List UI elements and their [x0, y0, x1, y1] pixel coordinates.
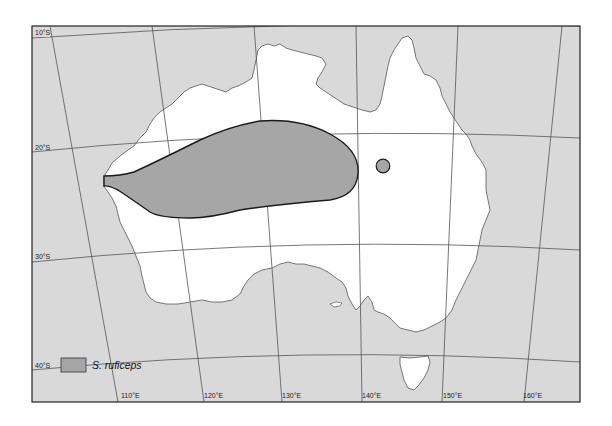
legend-label: S. ruficeps [92, 359, 142, 371]
lat-label-20s: 20°S [35, 144, 51, 151]
range-polygon-isolated [376, 159, 390, 173]
lat-label-10s: 10°S [35, 29, 51, 36]
lat-label-30s: 30°S [35, 253, 51, 260]
lon-label-160e: 160°E [523, 392, 542, 399]
lon-label-140e: 140°E [362, 392, 381, 399]
lat-label-40s: 40°S [35, 362, 51, 369]
legend: S. ruficeps [61, 358, 142, 372]
lon-label-130e: 130°E [282, 392, 301, 399]
lon-label-150e: 150°E [443, 392, 462, 399]
lon-label-120e: 120°E [204, 392, 223, 399]
distribution-map: 10°S 20°S 30°S 40°S 110°E 120°E 130°E 14… [0, 0, 612, 426]
legend-swatch [61, 358, 86, 372]
lon-label-110e: 110°E [121, 392, 140, 399]
